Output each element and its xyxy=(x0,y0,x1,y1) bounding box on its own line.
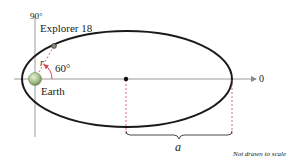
satellite-icon xyxy=(52,44,57,49)
angle-90-label: 90° xyxy=(30,11,43,21)
ellipse-center-dot xyxy=(124,77,128,81)
angle-0-label: 0 xyxy=(259,73,264,84)
orbit-diagram: 90° Explorer 18 r 60° Earth 0 a Not draw… xyxy=(0,0,287,162)
satellite-label: Explorer 18 xyxy=(40,22,92,34)
semi-major-axis-label: a xyxy=(175,140,181,155)
scale-note: Not drawn to scale xyxy=(233,150,286,158)
angle-60-label: 60° xyxy=(55,62,70,74)
radius-label: r xyxy=(40,57,44,68)
earth-icon xyxy=(29,73,42,86)
angle-arc xyxy=(44,65,52,80)
semi-major-brace xyxy=(126,131,232,139)
earth-label: Earth xyxy=(41,85,65,97)
